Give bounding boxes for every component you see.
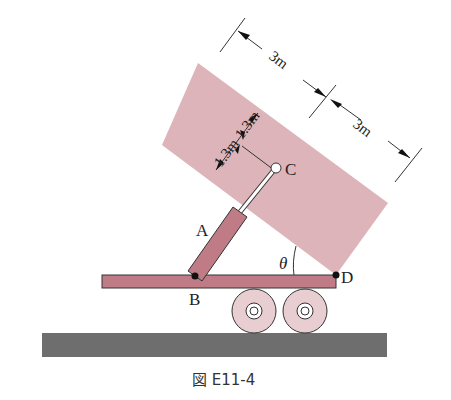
ground — [42, 333, 387, 357]
label-theta: θ — [279, 254, 287, 273]
point-b — [192, 273, 199, 280]
point-c — [271, 163, 281, 173]
hydraulic-cylinder — [188, 207, 247, 281]
label-b: B — [189, 290, 200, 309]
label-c: C — [285, 160, 296, 179]
dim-length-2: 3m — [350, 116, 375, 141]
angle-arc — [293, 246, 296, 275]
dump-truck-diagram: 3m 3m 1.3m 1.3m C A B D θ 図 E11-4 — [0, 0, 451, 400]
label-d: D — [341, 268, 353, 287]
figure-caption: 図 E11-4 — [192, 371, 255, 389]
platform — [102, 275, 336, 288]
wheel-left — [232, 289, 276, 333]
dim-length-1: 3m — [266, 48, 291, 73]
wheel-right — [283, 289, 327, 333]
label-a: A — [196, 221, 209, 240]
point-d — [333, 272, 340, 279]
